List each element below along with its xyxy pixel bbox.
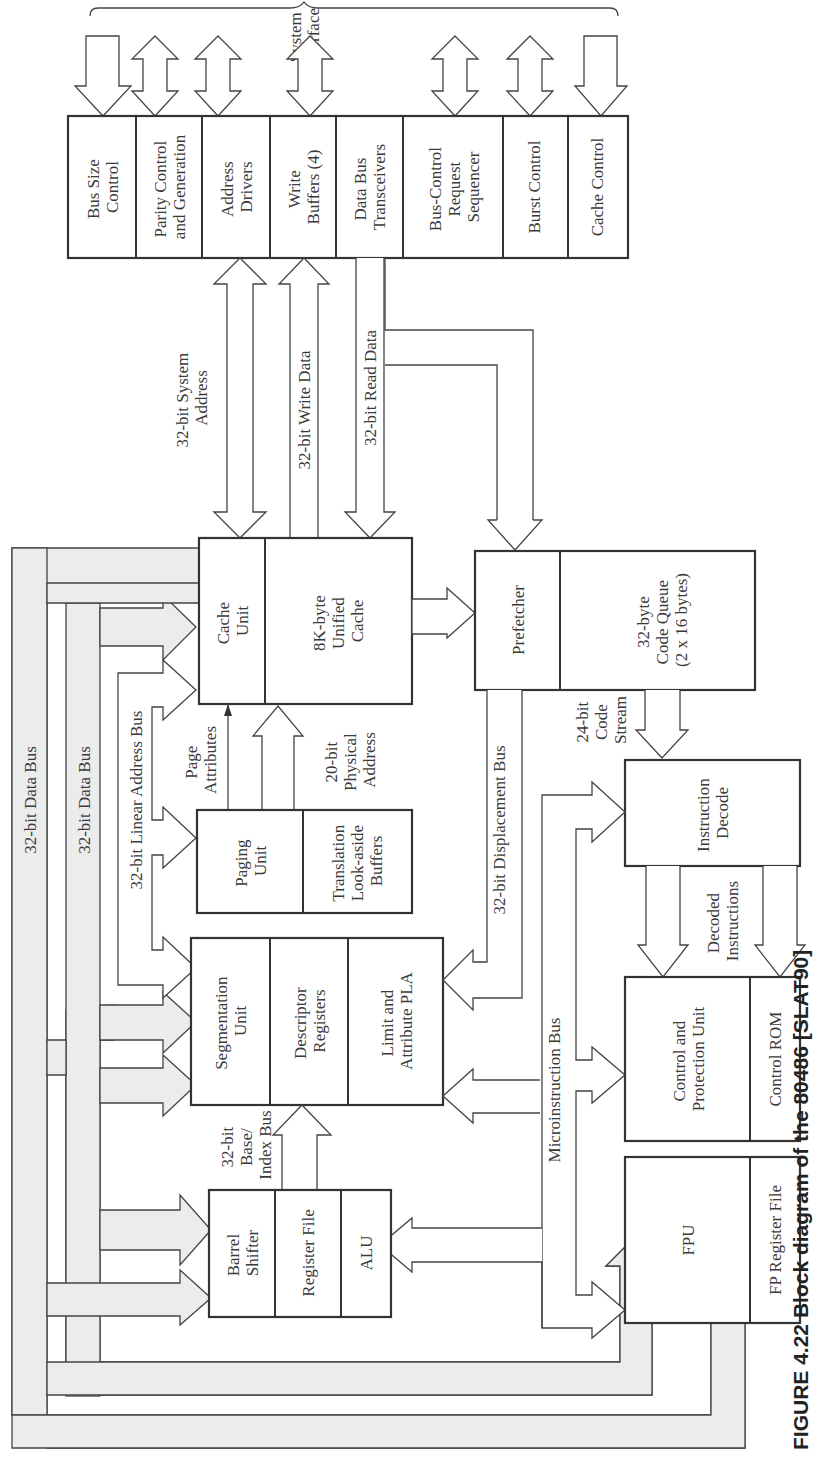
system-interface-blocks: Bus Size Control Parity Control and Gene… [68,116,628,258]
block-cache-control: Cache Control [588,137,607,236]
block-descriptor-registers: Descriptor Registers [291,983,329,1059]
physical-address-arrow [253,706,303,810]
block-control-protection-unit: Control and Protection Unit [670,1007,708,1112]
arrow-into-prefetcher [488,520,542,550]
base-index-bus-arrow [273,1105,331,1190]
read-data-to-prefetcher-line [385,258,533,520]
block-burst-control: Burst Control [525,140,544,233]
prefetch-block: Prefetcher 32-byte Code Queue (2 x 16 by… [475,551,755,690]
displacement-bus-label: 32-bit Displacement Bus [490,745,509,914]
bus-arrow-seg-1 [100,992,196,1053]
page-attributes-label: Page Attributes [182,726,220,794]
write-data-label: 32-bit Write Data [295,350,314,469]
system-interface-brace [90,2,618,16]
data-bus-2-label: 32-bit Data Bus [75,746,94,854]
block-unified-cache: 8K-byte Unified Cache [310,591,367,651]
decoded-instructions-arrow-1 [638,866,688,977]
arrow-cache-control [575,36,627,116]
execution-block: Barrel Shifter Register File ALU [209,1190,391,1317]
read-data-label: 32-bit Read Data [361,329,380,446]
arrow-address-drivers [195,36,241,116]
block-data-bus-transceivers: Data Bus Transceivers [351,144,389,230]
system-address-label: 32-bit System Address [173,348,211,447]
block-fpu: FPU [679,1224,698,1255]
block-fp-register-file: FP Register File [766,1185,785,1295]
data-bus-2-strip [66,603,100,1396]
block-barrel-shifter: Barrel Shifter [224,1230,262,1277]
displacement-bus [443,690,522,1010]
arrow-bus-size-control [75,36,131,116]
data-bus-1-strip [12,548,47,1415]
bus-arrow-cache-1 [100,595,196,660]
control-protection-block: Control and Protection Unit Control ROM [625,977,800,1141]
linear-address-bus-label: 32-bit Linear Address Bus [127,711,146,890]
page-attributes-arrowhead [224,704,232,716]
decoded-instructions-label: Decoded Instructions [704,881,742,961]
arrow-parity-control [132,36,178,116]
block-register-file: Register File [299,1209,318,1296]
code-stream-arrow [636,690,688,758]
segmentation-block: Segmentation Unit Descriptor Registers L… [191,938,443,1105]
figure-caption: FIGURE 4.22 Block diagram of the 80486 [… [789,950,812,1450]
block-control-rom: Control ROM [766,1012,785,1107]
block-alu: ALU [357,1236,376,1271]
arrow-burst-control [507,36,553,116]
physical-address-label: 20-bit Physical Address [322,729,379,791]
microinstruction-bus-label: Microinstruction Bus [545,1018,564,1163]
instruction-decode-block: Instruction Decode [625,760,800,866]
system-address-bus [214,258,266,538]
fpu-block: FPU FP Register File [625,1157,800,1323]
block-prefetcher: Prefetcher [509,585,528,655]
block-parity-control: Parity Control and Generation [151,134,189,239]
bus-arrow-shifter-1 [100,1195,211,1265]
base-index-bus-label: 32-bit Base/ Index Bus [218,1110,275,1179]
data-bus-1-label: 32-bit Data Bus [21,746,40,854]
block-limit-attribute-pla: Limit and Attribute PLA [378,971,416,1069]
cache-block: Cache Unit 8K-byte Unified Cache [199,538,412,704]
block-bus-size-control: Bus Size Control [84,155,122,219]
80486-block-diagram: System Interface Bus Size Control Parity… [0,0,822,1459]
arrow-bus-control-sequencer [432,36,478,116]
paging-block: Paging Unit Translation Look-aside Buffe… [197,810,412,913]
code-stream-label: 24-bit Code Stream [573,696,630,744]
arrow-cache-to-prefetcher [412,588,475,638]
block-address-drivers: Address Drivers [218,157,256,217]
bus-arrow-seg-2 [100,1055,196,1116]
